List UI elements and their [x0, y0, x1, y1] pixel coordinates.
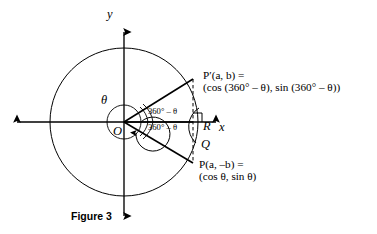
- figure-3-diagram: y x O θ R Q 360° – θ 360° – θ P′(a, b) =…: [0, 0, 377, 234]
- x-axis-label: x: [219, 120, 225, 135]
- point-p-prime-label-line2: (cos (360° – θ), sin (360° – θ)): [203, 81, 340, 94]
- point-r-label: R: [203, 119, 211, 134]
- diagram-canvas: [0, 0, 377, 234]
- lower-angle-measure-label: 360° – θ: [148, 122, 177, 132]
- point-p-label-line2: (cos θ, sin θ): [199, 170, 256, 183]
- figure-caption: Figure 3: [71, 210, 112, 222]
- theta-angle-label: θ: [101, 93, 107, 108]
- origin-label: O: [113, 124, 122, 139]
- point-q-label: Q: [201, 137, 210, 152]
- upper-angle-measure-label: 360° – θ: [148, 106, 177, 116]
- y-axis-label: y: [107, 7, 113, 22]
